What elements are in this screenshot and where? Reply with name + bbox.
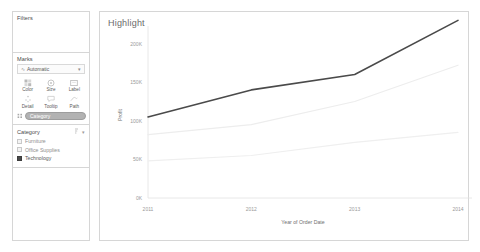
series-line-furniture[interactable] (148, 132, 458, 161)
detail-icon (22, 95, 33, 104)
color-legend-card: Category ▾ Furniture Office Supplies Tec… (12, 124, 90, 168)
mark-type-dropdown[interactable]: ∿ Automatic ▾ (17, 64, 85, 74)
marks-button-detail[interactable]: Detail (16, 95, 39, 110)
legend-item-label: Office Supplies (25, 147, 60, 153)
marks-button-size-label: Size (47, 88, 56, 93)
sort-icon[interactable] (74, 128, 80, 136)
series-line-office-supplies[interactable] (148, 65, 458, 135)
filters-card: Filters (12, 11, 90, 52)
line-mark-icon: ∿ (21, 67, 25, 72)
color-palette-icon (22, 78, 33, 87)
y-axis-tick-label: 200K (130, 41, 142, 47)
marks-button-color-label: Color (22, 88, 33, 93)
marks-button-tooltip-label: Tooltip (44, 105, 57, 110)
x-axis-title: Year of Order Date (281, 219, 324, 225)
sidebar-empty-area (12, 168, 90, 241)
marks-button-tooltip[interactable]: Tooltip (39, 95, 62, 110)
marks-shelf-buttons: Color Size Label (13, 77, 89, 111)
size-circle-icon (45, 78, 56, 87)
mark-type-value: Automatic (27, 66, 49, 72)
legend-item-label: Furniture (25, 138, 46, 144)
color-legend-header: Category ▾ (13, 125, 89, 137)
marks-button-size[interactable]: Size (39, 78, 62, 93)
legend-item-technology[interactable]: Technology (13, 154, 89, 163)
y-axis-tick-label: 150K (130, 79, 142, 85)
path-line-icon (69, 95, 80, 104)
plot-area: 0K50K100K150K200KProfit2011201220132014Y… (100, 12, 468, 240)
chevron-down-icon: ▾ (78, 67, 81, 72)
drag-handle-icon (17, 113, 23, 120)
left-sidebar: Filters Marks ∿ Automatic ▾ Color (12, 11, 90, 241)
legend-swatch (17, 147, 22, 152)
tableau-worksheet: Filters Marks ∿ Automatic ▾ Color (0, 0, 480, 252)
y-axis-tick-label: 50K (133, 156, 143, 162)
marks-button-detail-label: Detail (22, 105, 34, 110)
line-chart[interactable]: 0K50K100K150K200KProfit2011201220132014Y… (100, 12, 480, 242)
color-legend-title: Category (17, 129, 40, 135)
marks-button-color[interactable]: Color (16, 78, 39, 93)
tooltip-bubble-icon (45, 95, 56, 104)
x-axis-tick-label: 2014 (452, 206, 463, 212)
label-tag-icon (69, 78, 80, 87)
legend-item-furniture[interactable]: Furniture (13, 137, 89, 146)
chart-panel: Highlight 0K50K100K150K200KProfit2011201… (99, 11, 469, 241)
pill-category[interactable]: Category (25, 112, 86, 120)
series-line-technology[interactable] (148, 20, 458, 117)
filters-card-title: Filters (13, 12, 89, 23)
marks-card-title: Marks (13, 53, 89, 64)
marks-color-shelf-row: Category (13, 111, 89, 120)
marks-button-label[interactable]: Label (63, 78, 86, 93)
x-axis-tick-label: 2013 (349, 206, 360, 212)
legend-item-label: Technology (25, 155, 51, 161)
marks-card: Marks ∿ Automatic ▾ Color Size (12, 52, 90, 124)
marks-button-path-label: Path (70, 105, 79, 110)
chevron-down-icon[interactable]: ▾ (82, 130, 85, 135)
y-axis-title: Profit (117, 108, 123, 121)
marks-button-label-label: Label (69, 88, 80, 93)
color-legend-tools: ▾ (74, 128, 85, 136)
x-axis-tick-label: 2012 (246, 206, 257, 212)
y-axis-tick-label: 0K (136, 195, 143, 201)
y-axis-tick-label: 100K (130, 118, 142, 124)
legend-swatch (17, 156, 22, 161)
legend-swatch (17, 139, 22, 144)
marks-button-path[interactable]: Path (63, 95, 86, 110)
legend-item-office-supplies[interactable]: Office Supplies (13, 146, 89, 155)
x-axis-tick-label: 2011 (143, 206, 154, 212)
